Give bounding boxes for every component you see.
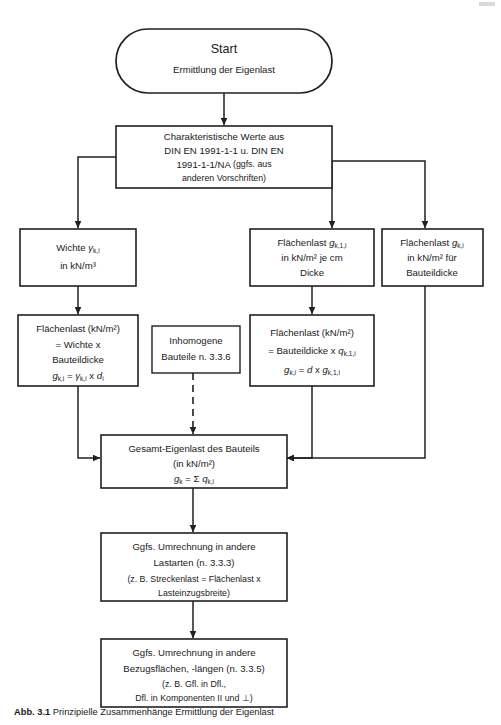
node-werte-line1: Charakteristische Werte aus bbox=[164, 131, 285, 142]
node-fw-line1: Flächenlast (kN/m²) bbox=[36, 323, 120, 334]
connector-flaechenlast-dicke-to-gesamt bbox=[287, 386, 312, 458]
node-werte-line3a: 1991-1-1/NA bbox=[176, 159, 233, 170]
figure-caption-text: Prinzipielle Zusammenhänge Ermittlung de… bbox=[53, 707, 274, 717]
g-eq: = bbox=[183, 473, 194, 484]
node-werte-line4: anderen Vorschriften) bbox=[182, 173, 266, 183]
node-bauteildicke-line1: Flächenlast gk,i bbox=[400, 237, 464, 249]
node-inhomogene-line1: Inhomogene bbox=[169, 335, 222, 346]
node-fw-line2: = Wichte x bbox=[55, 339, 100, 350]
node-flaechenlast-dicke[interactable]: Flächenlast (kN/m²) = Bauteildicke x qk,… bbox=[250, 315, 374, 386]
flowchart-canvas: Start Ermittlung der Eigenlast Charakter… bbox=[0, 0, 501, 725]
node-wichte-subscript: k,i bbox=[93, 247, 100, 254]
node-werte-line2: DIN EN 1991-1-1 u. DIN EN bbox=[164, 145, 284, 156]
flowchart-diagram: Start Ermittlung der Eigenlast Charakter… bbox=[0, 0, 501, 725]
node-gesamt-line1: Gesamt-Eigenlast des Bauteils bbox=[128, 443, 259, 454]
node-lastarten-line3: (z. B. Streckenlast = Flächenlast x bbox=[127, 574, 261, 584]
node-fw-line3: Bauteildicke bbox=[52, 354, 104, 365]
node-fd-line1: Flächenlast (kN/m²) bbox=[270, 327, 354, 338]
node-inhomogene-line2: Bauteile n. 3.3.6 bbox=[161, 351, 230, 362]
node-werte-line3: 1991-1-1/NA (ggfs. aus bbox=[176, 159, 272, 170]
node-jecm-label: Flächenlast bbox=[277, 237, 329, 248]
fd-rhs2-sub: k,1,i bbox=[328, 369, 341, 376]
node-wichte-line2: in kN/m³ bbox=[60, 260, 96, 271]
node-lastarten-line4: Lasteinzugsbreite) bbox=[158, 588, 230, 598]
node-inhomogene[interactable]: Inhomogene Bauteile n. 3.3.6 bbox=[152, 326, 240, 373]
figure-caption-number: Abb. 3.1 bbox=[14, 707, 50, 717]
fd-line2-text: = Bauteildicke x bbox=[268, 345, 338, 356]
g-sum: Σ bbox=[194, 473, 203, 484]
node-bezugsflaechen-line3: (z. B. Gfl. in Dfl., bbox=[162, 679, 226, 689]
connector-werte-to-flaechenlast-bauteildicke bbox=[332, 161, 425, 228]
node-bauteildicke-subscript: k,i bbox=[457, 242, 464, 249]
node-werte-line3b: (ggfs. aus bbox=[233, 159, 272, 169]
node-wichte-shape bbox=[20, 229, 136, 286]
fw-eq: = bbox=[64, 370, 75, 381]
node-lastarten-line1: Ggfs. Umrechnung in andere bbox=[132, 541, 255, 552]
node-wichte[interactable]: Wichte γk,i in kN/m³ bbox=[20, 229, 136, 286]
fd-line2-sub: k,1,i bbox=[344, 350, 357, 357]
node-umrechnung-bezugsflaechen[interactable]: Ggfs. Umrechnung in andere Bezugsflächen… bbox=[101, 639, 287, 707]
node-flaechenlast-bauteildicke[interactable]: Flächenlast gk,i in kN/m² für Bauteildic… bbox=[382, 229, 483, 286]
node-jecm-subscript: k,1,i bbox=[334, 242, 347, 249]
node-wichte-label: Wichte bbox=[56, 242, 88, 253]
fd-op: x bbox=[312, 364, 322, 375]
figure-caption: Abb. 3.1 Prinzipielle Zusammenhänge Ermi… bbox=[0, 706, 501, 718]
node-charakteristische-werte[interactable]: Charakteristische Werte aus DIN EN 1991-… bbox=[116, 126, 332, 188]
node-inhomogene-shape bbox=[152, 326, 240, 373]
connector-werte-to-wichte bbox=[78, 157, 116, 228]
node-bauteildicke-label: Flächenlast bbox=[400, 237, 452, 248]
connector-flaechenlast-wichte-to-gesamt bbox=[78, 386, 100, 458]
g-rhs-sub: k,i bbox=[207, 478, 214, 485]
node-gesamt-line2: (in kN/m²) bbox=[173, 458, 215, 469]
node-bezugsflaechen-line1: Ggfs. Umrechnung in andere bbox=[132, 647, 255, 658]
node-fd-line2: = Bauteildicke x qk,1,i bbox=[268, 345, 356, 357]
node-bauteildicke-line3: Bauteildicke bbox=[406, 267, 458, 278]
node-bezugsflaechen-line2: Bezugsflächen, -längen (n. 3.3.5) bbox=[123, 663, 264, 674]
node-umrechnung-lastarten[interactable]: Ggfs. Umrechnung in andere Lastarten (n.… bbox=[101, 533, 287, 601]
node-lastarten-line2: Lastarten (n. 3.3.3) bbox=[153, 557, 234, 568]
node-jecm-line3: Dicke bbox=[300, 267, 324, 278]
node-flaechenlast-je-cm[interactable]: Flächenlast gk,1,i in kN/m² je cm Dicke bbox=[250, 229, 374, 286]
node-start-subtitle: Ermittlung der Eigenlast bbox=[173, 64, 275, 75]
fd-eq: = bbox=[296, 364, 307, 375]
fw-op: x bbox=[87, 370, 97, 381]
node-flaechenlast-wichte[interactable]: Flächenlast (kN/m²) = Wichte x Bauteildi… bbox=[18, 315, 138, 386]
node-gesamt-eigenlast[interactable]: Gesamt-Eigenlast des Bauteils (in kN/m²)… bbox=[101, 435, 287, 488]
node-start-shape bbox=[116, 29, 332, 93]
node-bezugsflaechen-line4: Dfl. in Komponenten II und ⊥) bbox=[135, 693, 253, 703]
node-bauteildicke-line2: in kN/m² für bbox=[407, 252, 457, 263]
node-start[interactable]: Start Ermittlung der Eigenlast bbox=[116, 29, 332, 93]
node-jecm-line2: in kN/m² je cm bbox=[281, 252, 342, 263]
node-start-title: Start bbox=[211, 42, 238, 56]
